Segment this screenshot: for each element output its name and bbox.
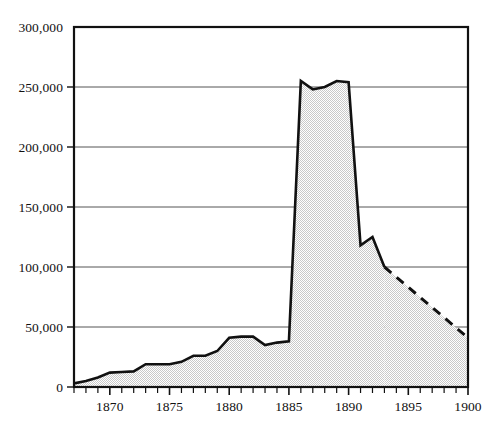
x-tick-label-1875: 1875	[156, 399, 184, 414]
y-tick-label-50000: 50,000	[25, 320, 63, 335]
y-tick-label-250000: 250,000	[18, 80, 63, 95]
y-tick-label-0: 0	[56, 380, 63, 395]
x-tick-label-1885: 1885	[275, 399, 303, 414]
y-tick-label-100000: 100,000	[18, 260, 63, 275]
x-tick-label-1895: 1895	[395, 399, 423, 414]
y-tick-label-150000: 150,000	[18, 200, 63, 215]
chart-container: 050,000100,000150,000200,000250,000300,0…	[0, 0, 496, 432]
x-tick-label-1870: 1870	[96, 399, 124, 414]
y-tick-label-300000: 300,000	[18, 20, 63, 35]
line-area-chart: 050,000100,000150,000200,000250,000300,0…	[0, 0, 496, 432]
y-tick-label-200000: 200,000	[18, 140, 63, 155]
x-tick-label-1890: 1890	[335, 399, 363, 414]
x-tick-label-1880: 1880	[216, 399, 244, 414]
x-tick-label-1900: 1900	[454, 399, 482, 414]
